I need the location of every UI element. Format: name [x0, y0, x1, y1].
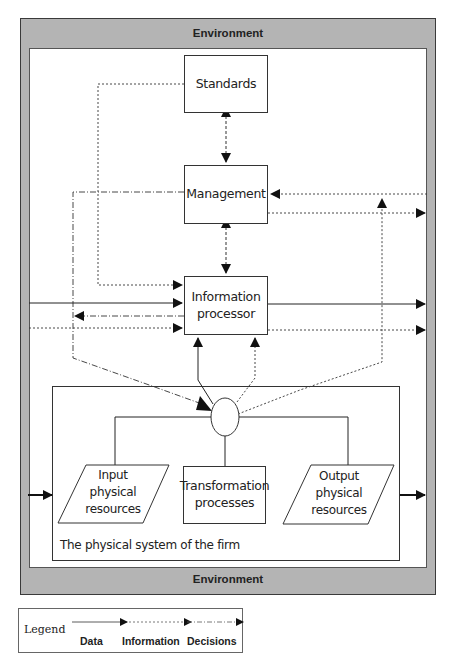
legend-decisions-label: Decisions — [187, 635, 237, 647]
information-processor-line2: processor — [197, 306, 255, 323]
transformation-line1: Transformation — [180, 478, 270, 495]
standards-box: Standards — [184, 55, 268, 113]
output-resources-label: Output physical resources — [294, 468, 384, 518]
transformation-box: Transformation processes — [183, 466, 266, 524]
management-box: Management — [184, 165, 268, 224]
output-line2: physical — [294, 485, 384, 502]
standards-label: Standards — [196, 76, 257, 93]
coordination-node — [211, 398, 239, 436]
input-line3: resources — [68, 501, 158, 518]
output-line3: resources — [294, 502, 384, 519]
input-line1: Input — [68, 467, 158, 484]
legend-data-label: Data — [80, 635, 103, 647]
legend: Legend Data Information Decisions — [18, 608, 243, 653]
input-resources-label: Input physical resources — [68, 467, 158, 517]
input-line2: physical — [68, 484, 158, 501]
legend-swatches — [19, 609, 244, 654]
management-label: Management — [186, 186, 265, 203]
legend-information-label: Information — [122, 635, 180, 647]
output-line1: Output — [294, 468, 384, 485]
transformation-line2: processes — [195, 495, 255, 512]
information-processor-box: Information processor — [184, 276, 268, 335]
information-processor-line1: Information — [191, 289, 260, 306]
diagram-canvas: Environment Environment The physical sys… — [0, 0, 453, 655]
